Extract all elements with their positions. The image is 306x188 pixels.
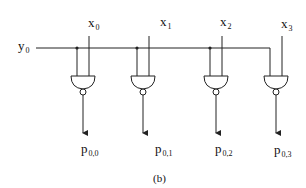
nand-gate-2 <box>204 36 228 133</box>
nand-array-diagram <box>0 0 306 188</box>
inversion-bubble <box>273 89 279 95</box>
x2-label: x2 <box>220 15 232 31</box>
p00-label: p0,0 <box>81 142 99 158</box>
p01-label: p0,1 <box>155 142 173 158</box>
p02-label: p0,2 <box>215 142 233 158</box>
inversion-bubble <box>80 89 86 95</box>
y0-label: y0 <box>18 39 30 55</box>
inversion-bubble <box>213 89 219 95</box>
figure-caption: (b) <box>153 172 166 184</box>
nand-gate-1 <box>131 36 155 133</box>
x1-label: x1 <box>160 15 172 31</box>
x3-label: x3 <box>281 17 293 33</box>
y0-bus-line <box>36 48 270 76</box>
nand-gate-3 <box>264 36 288 133</box>
inversion-bubble <box>140 89 146 95</box>
x0-label: x0 <box>88 16 100 32</box>
p03-label: p0,3 <box>274 143 292 159</box>
nand-gate-0 <box>71 36 95 133</box>
